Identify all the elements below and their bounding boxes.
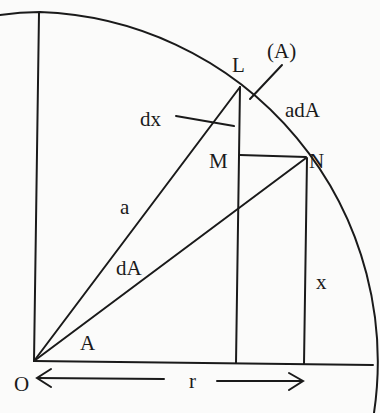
label-a: a	[120, 195, 130, 219]
label-M: M	[209, 149, 228, 173]
radius-ON	[34, 158, 306, 361]
label-L: L	[232, 53, 245, 77]
label-dx: dx	[140, 107, 162, 131]
circular-arc	[0, 12, 378, 413]
label-dA: dA	[116, 256, 143, 280]
label-adA: adA	[285, 98, 321, 122]
vertical-axis	[34, 13, 39, 361]
label-A-paren: (A)	[267, 39, 296, 63]
arrow-r-left-shaft	[38, 378, 164, 379]
radius-OL	[34, 87, 240, 361]
label-N: N	[309, 149, 324, 173]
label-A: A	[80, 331, 96, 355]
perpendicular-N	[304, 158, 307, 364]
label-r: r	[189, 369, 196, 393]
horizontal-axis	[34, 361, 373, 365]
segment-MN	[240, 155, 306, 157]
leader-A-paren	[250, 65, 282, 99]
label-x: x	[316, 270, 327, 294]
label-O: O	[14, 372, 29, 396]
perpendicular-L	[236, 87, 240, 363]
leader-dx	[176, 116, 234, 126]
quarter-circle-diagram: O L M N (A) adA dx a dA A x r	[0, 0, 380, 413]
